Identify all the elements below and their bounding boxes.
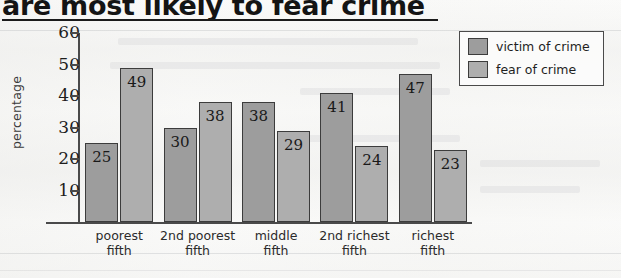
bar-value-label: 49 <box>121 73 152 91</box>
category-label-line1: poorest <box>96 228 143 243</box>
chart-canvas: percentage 605040302010 2549303838294124… <box>0 0 621 278</box>
category-label-line1: richest <box>412 228 455 243</box>
plot-area: 25493038382941244723 <box>80 33 472 222</box>
bar[interactable]: 24 <box>355 146 388 222</box>
bar-value-label: 24 <box>356 151 387 169</box>
bar-value-label: 41 <box>321 98 352 116</box>
bar-group: 4124 <box>320 33 388 222</box>
category-label-line2: fifth <box>237 243 315 258</box>
bar-group: 4723 <box>399 33 467 222</box>
bar[interactable]: 29 <box>277 131 310 222</box>
chart-legend: victim of crimefear of crime <box>459 31 604 86</box>
bar-value-label: 30 <box>165 133 196 151</box>
bar-value-label: 29 <box>278 136 309 154</box>
bar[interactable]: 30 <box>164 128 197 223</box>
legend-item[interactable]: fear of crime <box>468 61 596 78</box>
category-label-line1: 2nd poorest <box>160 228 235 243</box>
legend-swatch <box>468 61 488 78</box>
legend-label: victim of crime <box>496 39 590 54</box>
bar-value-label: 25 <box>86 148 117 166</box>
bar-group: 3038 <box>164 33 232 222</box>
bar-value-label: 47 <box>400 79 431 97</box>
x-axis-line <box>46 222 472 224</box>
y-axis-tick-mark <box>70 64 79 66</box>
legend-label: fear of crime <box>496 62 576 77</box>
category-label-line1: middle <box>255 228 298 243</box>
y-axis-tick-mark <box>70 95 79 97</box>
bar[interactable]: 49 <box>120 68 153 222</box>
category-label-line2: fifth <box>80 243 158 258</box>
y-axis-tick-mark <box>70 158 79 160</box>
x-axis-category-label: poorestfifth <box>80 228 158 258</box>
legend-swatch <box>468 38 488 55</box>
chart-page: are most likely to fear crime percentage… <box>0 0 621 278</box>
bar[interactable]: 25 <box>85 143 118 222</box>
y-axis-title: percentage <box>9 63 24 163</box>
category-label-line2: fifth <box>315 243 393 258</box>
category-label-line2: fifth <box>158 243 236 258</box>
bar[interactable]: 38 <box>242 102 275 222</box>
category-label-line2: fifth <box>394 243 472 258</box>
bar[interactable]: 38 <box>199 102 232 222</box>
bar-group: 3829 <box>242 33 310 222</box>
y-axis-tick-mark <box>70 127 79 129</box>
bar-group: 2549 <box>85 33 153 222</box>
bar-value-label: 23 <box>435 155 466 173</box>
x-axis-category-label: 2nd poorestfifth <box>158 228 236 258</box>
bar[interactable]: 47 <box>399 74 432 222</box>
bar[interactable]: 41 <box>320 93 353 222</box>
x-axis-category-label: middlefifth <box>237 228 315 258</box>
bar-value-label: 38 <box>200 107 231 125</box>
x-axis-category-label: 2nd richestfifth <box>315 228 393 258</box>
x-axis-category-label: richestfifth <box>394 228 472 258</box>
bar-value-label: 38 <box>243 107 274 125</box>
bar[interactable]: 23 <box>434 150 467 222</box>
legend-item[interactable]: victim of crime <box>468 38 596 55</box>
category-label-line1: 2nd richest <box>319 228 389 243</box>
y-axis-tick-mark <box>70 190 79 192</box>
y-axis-tick-mark <box>70 32 79 34</box>
